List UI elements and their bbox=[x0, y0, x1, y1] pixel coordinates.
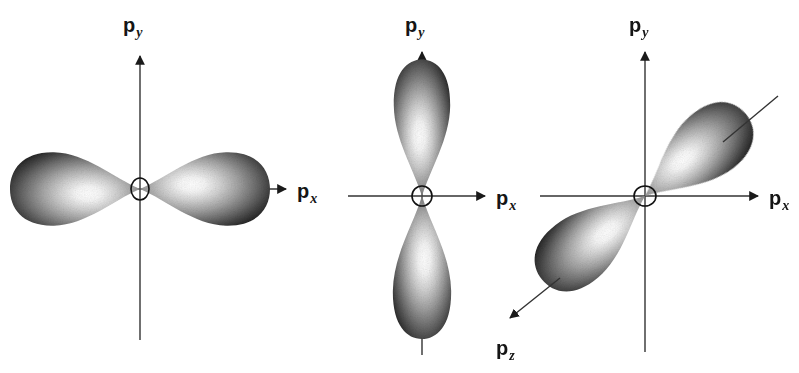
p-orbitals-figure: py px py px bbox=[0, 0, 799, 373]
px-panel-x-axis-subscript: x bbox=[309, 191, 317, 206]
px-panel-y-axis-subscript: y bbox=[134, 25, 143, 40]
pz-panel-z-axis-subscript: z bbox=[508, 348, 515, 363]
py-panel-y-axis-subscript: y bbox=[416, 25, 425, 40]
py-panel-x-axis-subscript: x bbox=[508, 198, 516, 213]
pz-panel-x-axis-subscript: x bbox=[781, 198, 789, 213]
pz-panel-y-axis-subscript: y bbox=[640, 25, 649, 40]
